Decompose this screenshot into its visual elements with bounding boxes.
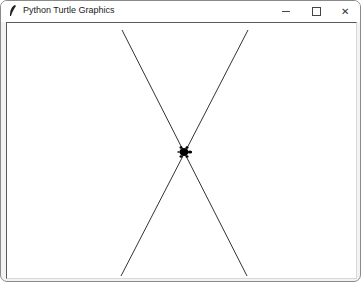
close-button[interactable]: ✕	[330, 1, 360, 22]
maximize-button[interactable]	[301, 1, 331, 22]
maximize-icon	[312, 7, 321, 16]
turtle-canvas[interactable]	[6, 22, 357, 279]
feather-icon	[9, 5, 17, 17]
turtle-icon	[177, 146, 192, 158]
window-title: Python Turtle Graphics	[23, 5, 115, 15]
close-icon: ✕	[341, 6, 349, 17]
minimize-icon	[282, 11, 290, 12]
minimize-button[interactable]	[271, 1, 301, 22]
title-bar[interactable]: Python Turtle Graphics ✕	[1, 1, 360, 22]
turtle-window: Python Turtle Graphics ✕	[0, 0, 361, 282]
drawing-surface	[7, 23, 356, 278]
